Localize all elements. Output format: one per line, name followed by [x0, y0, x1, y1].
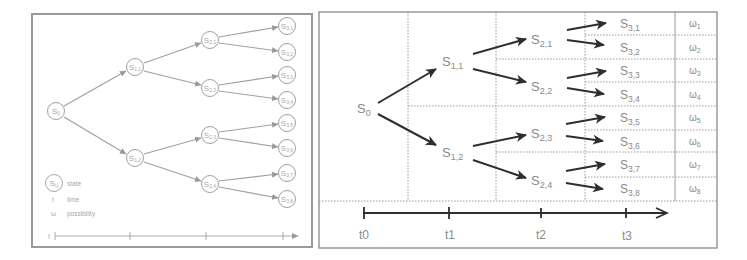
left-node-s36: S3,6 — [279, 140, 296, 157]
tick-label-t0: t0 — [359, 228, 369, 242]
left-node-s33: S3,3 — [279, 67, 296, 84]
tick-label-t3: t3 — [622, 229, 632, 243]
tick-label-t1: t1 — [445, 228, 455, 242]
left-timeline-start-label: t — [48, 233, 50, 240]
left-node-s37: S3,7 — [279, 165, 296, 182]
right-panel: S0 S1,1 S1,2 S2,1 S2,2 S2,3 S2,4 S3,1 S3… — [319, 12, 717, 248]
left-node-s24: S2,4 — [202, 176, 219, 193]
left-node-s32: S3,2 — [279, 44, 296, 61]
legend-possibility-label: possibility — [67, 210, 96, 218]
left-node-s11: S1,1 — [127, 59, 144, 76]
left-node-s38: S3,8 — [279, 191, 296, 208]
legend-possibility-symbol: ω — [51, 210, 56, 217]
left-node-s34: S3,4 — [279, 92, 296, 109]
left-panel: S0 S1,1 S1,2 S2,1 S2,2 S2,3 S2,4 S3,1 — [32, 14, 312, 247]
left-node-s12: S1,2 — [127, 150, 144, 167]
legend-time-symbol: t — [52, 196, 54, 203]
left-node-s22: S2,2 — [202, 80, 219, 97]
left-node-s21: S2,1 — [202, 32, 219, 49]
legend-state-label: state — [67, 180, 81, 187]
left-node-s31: S3,1 — [279, 18, 296, 35]
diagram-canvas: S0 S1,1 S1,2 S2,1 S2,2 S2,3 S2,4 S3,1 — [0, 0, 747, 260]
tick-label-t2: t2 — [536, 228, 546, 242]
left-node-s35: S3,5 — [279, 115, 296, 132]
left-node-s0: S0 — [48, 103, 65, 120]
left-node-s23: S2,3 — [202, 127, 219, 144]
legend-time-label: time — [67, 196, 80, 203]
